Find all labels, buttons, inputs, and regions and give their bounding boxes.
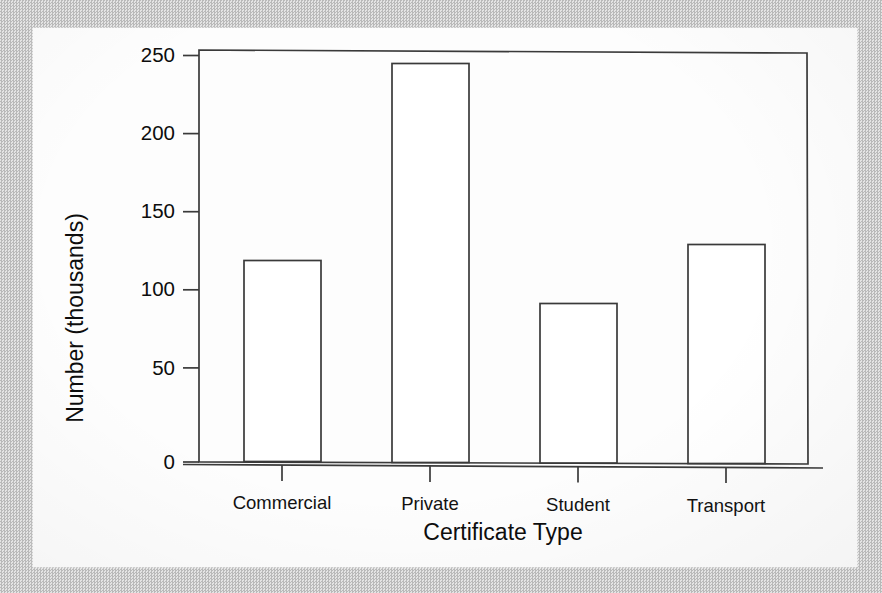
x-tick-label-transport: Transport [687, 495, 765, 516]
screenshot-root: Number (thousands) 250 200 150 100 50 0 [0, 0, 882, 593]
y-tick-label-100: 100 [141, 277, 175, 300]
x-axis-line [183, 465, 823, 469]
bar-transport[interactable] [688, 245, 765, 464]
bar-student[interactable] [540, 304, 617, 464]
x-tick-label-student: Student [546, 494, 610, 515]
y-axis-title: Number (thousands) [62, 213, 88, 423]
bar-private[interactable] [392, 64, 469, 463]
bar-chart-figure: Number (thousands) 250 200 150 100 50 0 [33, 28, 857, 567]
x-tick-label-private: Private [401, 493, 459, 514]
y-tick-label-200: 200 [141, 121, 175, 144]
scanned-page: Number (thousands) 250 200 150 100 50 0 [33, 28, 857, 567]
x-axis-title: Certificate Type [423, 519, 582, 545]
chart-svg: Number (thousands) 250 200 150 100 50 0 [33, 28, 857, 567]
x-tick-label-commercial: Commercial [233, 492, 332, 513]
y-tick-label-50: 50 [152, 356, 175, 379]
bar-commercial[interactable] [244, 261, 321, 462]
y-tick-label-0: 0 [164, 450, 175, 473]
y-tick-label-250: 250 [141, 43, 175, 66]
y-tick-label-150: 150 [141, 199, 175, 222]
